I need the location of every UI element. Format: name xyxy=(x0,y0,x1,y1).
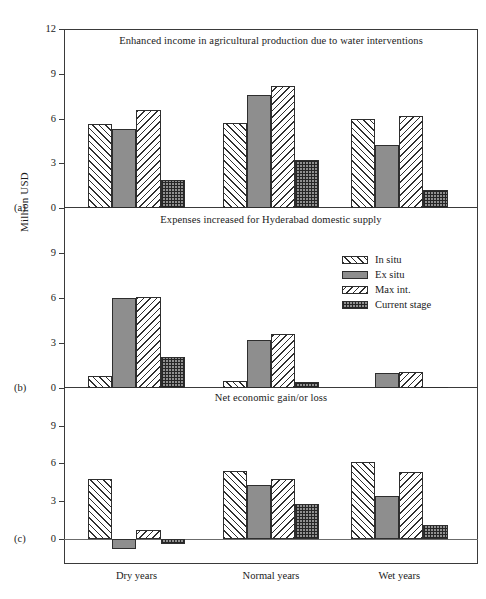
bar-in-situ xyxy=(223,381,247,388)
figure-canvas: Million USD Enhanced income in agricultu… xyxy=(0,0,486,599)
y-tick-label: 0 xyxy=(51,534,56,545)
y-tick-label: 0 xyxy=(51,203,56,214)
y-tick xyxy=(59,74,64,75)
y-tick xyxy=(59,119,64,120)
bar-max-int xyxy=(136,297,160,388)
bar-max-int xyxy=(399,116,423,208)
bar-max-int xyxy=(271,86,295,208)
x-label-dry-years: Dry years xyxy=(116,570,157,581)
x-label-normal-years: Normal years xyxy=(243,570,300,581)
legend-swatch-max-int xyxy=(342,286,368,294)
bar-ex-situ xyxy=(247,485,271,539)
bar-max-int xyxy=(136,110,160,208)
y-tick-label: 3 xyxy=(51,158,56,169)
bar-in-situ xyxy=(351,462,375,539)
bar-ex-situ xyxy=(375,373,399,388)
bar-in-situ xyxy=(88,124,112,208)
panel-c: Net economic gain/or loss 0369 xyxy=(64,388,478,564)
x-label-wet-years: Wet years xyxy=(379,570,420,581)
bar-current-stage xyxy=(161,539,185,544)
y-tick-label: 9 xyxy=(51,248,56,259)
panel-letter-b: (b) xyxy=(14,382,26,393)
bar-current-stage xyxy=(161,357,185,389)
y-tick xyxy=(59,539,64,540)
legend-item: Max int. xyxy=(342,283,431,297)
legend-item: Ex situ xyxy=(342,268,431,282)
chart-legend: In situ Ex situ Max int. Current stage xyxy=(342,253,431,313)
bar-in-situ xyxy=(88,479,112,539)
y-tick-label: 3 xyxy=(51,338,56,349)
y-tick-label: 3 xyxy=(51,496,56,507)
bar-in-situ xyxy=(351,119,375,209)
legend-label-max-int: Max int. xyxy=(375,283,411,297)
bar-current-stage xyxy=(423,525,447,539)
bar-in-situ xyxy=(88,376,112,388)
bar-max-int xyxy=(399,472,423,539)
x-axis-labels: Dry years Normal years Wet years xyxy=(64,570,478,586)
panel-letter-a: (a) xyxy=(14,202,26,213)
bar-max-int xyxy=(136,530,160,539)
bar-max-int xyxy=(399,372,423,389)
y-tick-label: 6 xyxy=(51,458,56,469)
bar-max-int xyxy=(271,334,295,388)
legend-swatch-ex-situ xyxy=(342,271,368,279)
y-tick xyxy=(59,29,64,30)
bar-current-stage xyxy=(295,160,319,208)
legend-item: In situ xyxy=(342,253,431,267)
y-tick xyxy=(59,426,64,427)
bar-ex-situ xyxy=(112,129,136,208)
y-tick xyxy=(59,463,64,464)
y-tick xyxy=(59,298,64,299)
panel-a: Enhanced income in agricultural producti… xyxy=(64,29,478,208)
legend-swatch-in-situ xyxy=(342,256,368,264)
bar-ex-situ xyxy=(112,539,136,549)
y-tick xyxy=(59,343,64,344)
legend-label-in-situ: In situ xyxy=(375,253,402,267)
y-tick-label: 6 xyxy=(51,293,56,304)
y-tick-label: 0 xyxy=(51,383,56,394)
panel-letter-c: (c) xyxy=(14,533,26,544)
bar-ex-situ xyxy=(375,496,399,539)
bar-ex-situ xyxy=(112,298,136,388)
bar-in-situ xyxy=(223,471,247,539)
y-tick-label: 9 xyxy=(51,69,56,80)
y-tick xyxy=(59,163,64,164)
panel-a-bars xyxy=(64,29,478,208)
bar-ex-situ xyxy=(375,145,399,208)
bar-current-stage xyxy=(161,180,185,208)
bar-ex-situ xyxy=(247,95,271,208)
bar-current-stage xyxy=(423,190,447,208)
y-axis-title: Million USD xyxy=(18,112,30,232)
y-tick-label: 12 xyxy=(46,24,57,35)
bar-ex-situ xyxy=(247,340,271,388)
bar-max-int xyxy=(271,479,295,539)
legend-label-current-stage: Current stage xyxy=(375,298,431,312)
y-tick xyxy=(59,253,64,254)
legend-label-ex-situ: Ex situ xyxy=(375,268,404,282)
legend-swatch-current-stage xyxy=(342,301,368,309)
panel-c-bars xyxy=(64,388,478,564)
bar-in-situ xyxy=(223,123,247,208)
y-tick xyxy=(59,501,64,502)
y-tick-label: 9 xyxy=(51,420,56,431)
y-tick-label: 6 xyxy=(51,113,56,124)
bar-current-stage xyxy=(295,504,319,539)
legend-item: Current stage xyxy=(342,298,431,312)
